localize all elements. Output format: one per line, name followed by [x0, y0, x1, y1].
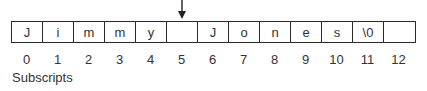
array-cell-5	[167, 22, 198, 42]
array-cell-12	[384, 22, 415, 42]
array-cell-10: s	[322, 22, 353, 42]
subscript-3: 3	[104, 52, 135, 67]
subscript-4: 4	[135, 52, 166, 67]
subscript-11: 11	[352, 52, 383, 67]
array-cell-6: J	[198, 22, 229, 42]
subscript-10: 10	[321, 52, 352, 67]
subscript-9: 9	[290, 52, 321, 67]
array-cell-0: J	[12, 22, 43, 42]
subscript-7: 7	[228, 52, 259, 67]
array-cell-2: m	[74, 22, 105, 42]
pointer-arrow-icon	[176, 0, 188, 20]
subscript-1: 1	[42, 52, 73, 67]
subscript-2: 2	[73, 52, 104, 67]
subscript-row: 0 1 2 3 4 5 6 7 8 9 10 11 12	[11, 52, 414, 67]
char-array: J i m m y J o n e s \0	[11, 21, 416, 43]
array-cell-4: y	[136, 22, 167, 42]
array-cell-7: o	[229, 22, 260, 42]
subscripts-label: Subscripts	[12, 70, 73, 85]
subscript-8: 8	[259, 52, 290, 67]
subscript-6: 6	[197, 52, 228, 67]
array-cell-8: n	[260, 22, 291, 42]
array-cell-3: m	[105, 22, 136, 42]
array-cell-11: \0	[353, 22, 384, 42]
array-cell-9: e	[291, 22, 322, 42]
array-cell-1: i	[43, 22, 74, 42]
subscript-5: 5	[166, 52, 197, 67]
subscript-0: 0	[11, 52, 42, 67]
subscript-12: 12	[383, 52, 414, 67]
